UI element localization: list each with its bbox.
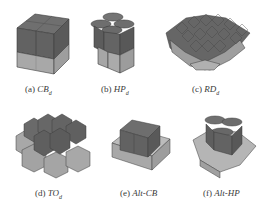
alternating-hexagonal-prism-lattice-illustration [0, 0, 269, 212]
caption-f: (f) Alt-HP [203, 188, 240, 198]
